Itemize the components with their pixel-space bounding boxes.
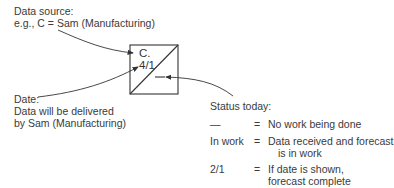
data-source-arrow	[58, 30, 133, 53]
status-desc: If date is shown,	[268, 164, 344, 176]
status-key: —	[210, 119, 250, 131]
status-desc-cont: forecast complete	[268, 176, 351, 188]
status-key: In work	[210, 136, 250, 148]
status-equals: =	[254, 136, 260, 148]
status-equals: =	[254, 119, 260, 131]
date-line-2: by Sam (Manufacturing)	[14, 117, 126, 129]
data-source-label: Data source:	[14, 5, 74, 17]
date-line-1: Data will be delivered	[14, 105, 114, 117]
status-key: 2/1	[210, 164, 250, 176]
date-label: Date:	[14, 93, 39, 105]
box-date: 4/1	[139, 59, 155, 72]
status-title: Status today:	[210, 100, 271, 112]
status-desc-cont: is in work	[278, 148, 322, 160]
status-desc: No work being done	[268, 119, 361, 131]
status-desc: Data received and forecast	[268, 136, 394, 148]
data-source-example: e.g., C = Sam (Manufacturing)	[14, 17, 155, 29]
status-arrow	[166, 77, 233, 96]
date-arrow	[38, 67, 138, 97]
status-equals: =	[254, 164, 260, 176]
